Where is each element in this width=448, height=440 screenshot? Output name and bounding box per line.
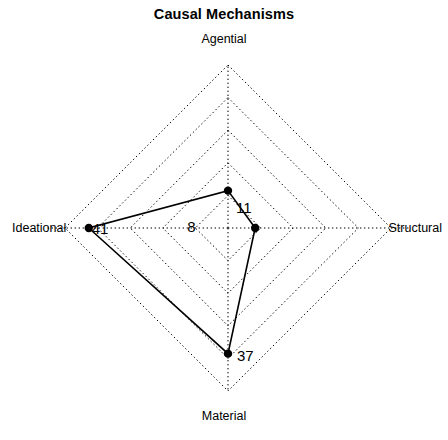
data-polygon xyxy=(89,191,255,354)
value-labels: 1183741 xyxy=(92,199,254,364)
data-point-marker xyxy=(224,349,232,357)
data-value-label: 41 xyxy=(92,220,109,237)
radar-plot-svg: 1183741 xyxy=(0,0,448,440)
data-point-marker xyxy=(251,224,259,232)
data-value-label: 11 xyxy=(236,199,252,216)
radar-chart-root: Causal Mechanisms Agential Structural Ma… xyxy=(0,0,448,440)
data-point-marker xyxy=(224,186,232,194)
data-value-label: 8 xyxy=(187,218,195,235)
data-value-label: 37 xyxy=(237,347,254,364)
data-polygon-group xyxy=(89,191,255,354)
